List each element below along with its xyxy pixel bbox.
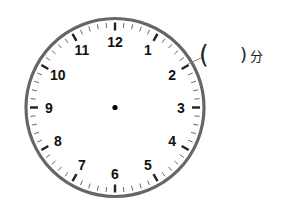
minute-tick (30, 99, 35, 100)
minute-tick (123, 187, 124, 192)
open-paren: ( (199, 40, 209, 69)
close-paren: ) (240, 44, 247, 65)
numeral-5: 5 (144, 157, 152, 173)
minute-tick (106, 187, 107, 192)
numeral-12: 12 (107, 34, 123, 50)
numeral-6: 6 (111, 166, 119, 182)
numeral-2: 2 (168, 67, 176, 83)
numeral-7: 7 (78, 157, 86, 173)
numeral-3: 3 (177, 100, 185, 116)
minute-tick (106, 23, 107, 28)
center-dot (112, 105, 117, 110)
numeral-10: 10 (50, 67, 66, 83)
minute-tick (195, 99, 200, 100)
numeral-11: 11 (75, 42, 90, 58)
numeral-4: 4 (168, 133, 176, 149)
numeral-8: 8 (54, 133, 62, 149)
minute-tick (195, 116, 200, 117)
unit-label-minutes: 分 (250, 49, 263, 64)
clock-diagram: 121234567891011 ( ) 分 (0, 0, 284, 220)
minute-tick (123, 23, 124, 28)
numeral-9: 9 (45, 100, 53, 116)
minute-tick (30, 116, 35, 117)
numeral-1: 1 (144, 42, 152, 58)
